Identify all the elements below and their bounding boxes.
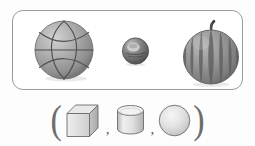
ball-icon [121,37,150,66]
watermelon-icon [181,15,241,87]
open-paren: ( [48,100,63,139]
cylinder-icon[interactable] [114,101,147,139]
close-paren: ) [191,100,206,139]
cube-icon[interactable] [64,101,102,139]
solids-row: ( , [0,96,255,144]
sphere-icon[interactable] [158,104,191,137]
basketball-icon [33,19,97,83]
separator-1: , [102,122,114,144]
objects-panel [12,10,243,90]
separator-2: , [147,122,159,144]
